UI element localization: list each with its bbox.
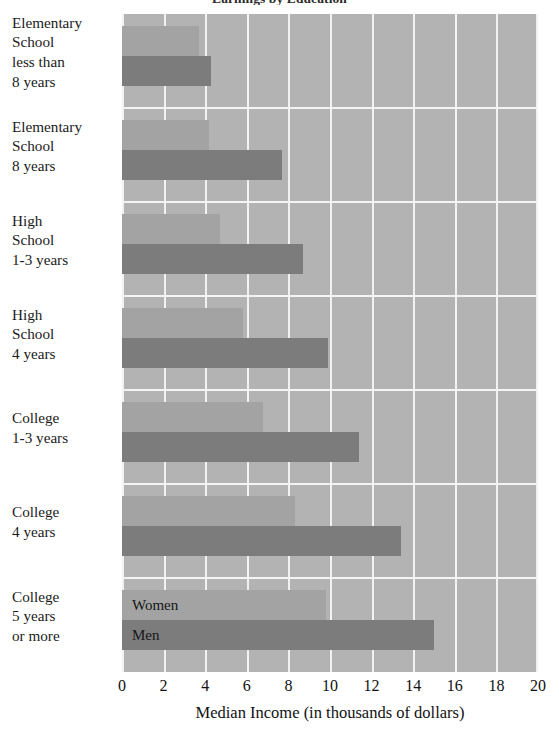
category-label-7: College5 yearsor more	[12, 587, 118, 646]
gridline-vertical	[536, 14, 538, 672]
legend-label-men: Men	[126, 620, 160, 650]
bar-men-4	[122, 338, 328, 368]
gridline-horizontal	[122, 201, 538, 203]
x-axis-title: Median Income (in thousands of dollars)	[122, 703, 538, 723]
category-label-5: College1-3 years	[12, 408, 118, 447]
gridline-horizontal	[122, 107, 538, 109]
category-label-line: 5 years	[12, 606, 118, 626]
category-label-2: ElementarySchool8 years	[12, 117, 118, 176]
category-label-line: School	[12, 32, 118, 52]
category-label-line: 8 years	[12, 72, 118, 92]
category-label-line: 4 years	[12, 522, 118, 542]
category-label-1: ElementarySchoolless than8 years	[12, 13, 118, 91]
category-label-6: College4 years	[12, 502, 118, 541]
gridline-horizontal	[122, 577, 538, 579]
category-label-line: College	[12, 587, 118, 607]
bar-men-2	[122, 150, 282, 180]
category-label-line: Elementary	[12, 13, 118, 33]
bar-men-1	[122, 56, 211, 86]
bar-women-5	[122, 402, 263, 432]
x-tick-16: 16	[447, 676, 463, 696]
category-label-4: HighSchool4 years	[12, 305, 118, 364]
bar-women-1	[122, 26, 199, 56]
x-tick-6: 6	[243, 676, 251, 696]
category-label-line: College	[12, 408, 118, 428]
category-label-line: 8 years	[12, 156, 118, 176]
bar-women-4	[122, 308, 243, 338]
x-tick-8: 8	[284, 676, 292, 696]
bar-men-6	[122, 526, 401, 556]
x-tick-20: 20	[530, 676, 546, 696]
category-label-line: 4 years	[12, 344, 118, 364]
bar-women-6	[122, 496, 295, 526]
bar-men-5	[122, 432, 359, 462]
x-tick-10: 10	[322, 676, 338, 696]
category-label-line: 1-3 years	[12, 428, 118, 448]
x-tick-2: 2	[160, 676, 168, 696]
bar-men-3	[122, 244, 303, 274]
gridline-horizontal	[122, 295, 538, 297]
gridline-horizontal	[122, 483, 538, 485]
category-label-line: 1-3 years	[12, 250, 118, 270]
category-label-line: High	[12, 305, 118, 325]
gridline-vertical	[496, 14, 498, 672]
x-axis-tick-labels: 02468101214161820	[122, 676, 538, 700]
category-label-3: HighSchool1-3 years	[12, 211, 118, 270]
category-label-line: or more	[12, 626, 118, 646]
x-tick-18: 18	[488, 676, 504, 696]
gridline-vertical	[372, 14, 374, 672]
gridline-vertical	[413, 14, 415, 672]
category-label-line: less than	[12, 52, 118, 72]
x-tick-14: 14	[405, 676, 421, 696]
category-label-line: College	[12, 502, 118, 522]
gridline-horizontal	[122, 389, 538, 391]
category-label-line: School	[12, 230, 118, 250]
bar-women-3	[122, 214, 220, 244]
bar-men-7	[122, 620, 434, 650]
x-tick-12: 12	[364, 676, 380, 696]
legend-label-women: Women	[126, 590, 178, 620]
x-tick-4: 4	[201, 676, 209, 696]
plot-area: WomenMen	[122, 14, 538, 672]
category-label-line: School	[12, 136, 118, 156]
category-label-line: Elementary	[12, 117, 118, 137]
gridline-vertical	[330, 14, 332, 672]
category-label-column: ElementarySchoolless than8 yearsElementa…	[0, 0, 118, 672]
bar-women-2	[122, 120, 209, 150]
x-tick-0: 0	[118, 676, 126, 696]
category-label-line: School	[12, 324, 118, 344]
gridline-vertical	[455, 14, 457, 672]
category-label-line: High	[12, 211, 118, 231]
